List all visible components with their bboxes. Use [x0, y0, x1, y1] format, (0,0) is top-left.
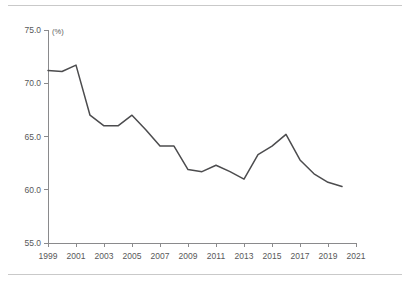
- x-tick-label: 2019: [319, 251, 338, 261]
- x-tick-label: 2015: [263, 251, 282, 261]
- chart-figure: 75.070.065.060.055.0 1999200120032005200…: [0, 0, 410, 285]
- x-tick-label: 1999: [39, 251, 58, 261]
- line-chart: 75.070.065.060.055.0 1999200120032005200…: [0, 0, 410, 285]
- x-tick-label: 2013: [235, 251, 254, 261]
- x-tick-label: 2007: [151, 251, 170, 261]
- y-axis-unit-label: (%): [52, 27, 64, 36]
- data-series-group: [48, 65, 342, 186]
- y-tick-label: 60.0: [24, 185, 41, 195]
- data-line-path: [48, 65, 342, 186]
- x-tick-label: 2021: [347, 251, 366, 261]
- y-tick-label: 75.0: [24, 25, 41, 35]
- y-tick-label: 55.0: [24, 238, 41, 248]
- x-tick-label: 2009: [179, 251, 198, 261]
- y-axis: 75.070.065.060.055.0: [24, 25, 48, 248]
- x-tick-label: 2017: [291, 251, 310, 261]
- y-tick-label: 65.0: [24, 132, 41, 142]
- x-tick-label: 2005: [123, 251, 142, 261]
- x-tick-label: 2001: [67, 251, 86, 261]
- y-tick-label: 70.0: [24, 78, 41, 88]
- x-tick-label: 2003: [95, 251, 114, 261]
- x-tick-label: 2011: [207, 251, 226, 261]
- x-axis: 1999200120032005200720092011201320152017…: [39, 243, 366, 261]
